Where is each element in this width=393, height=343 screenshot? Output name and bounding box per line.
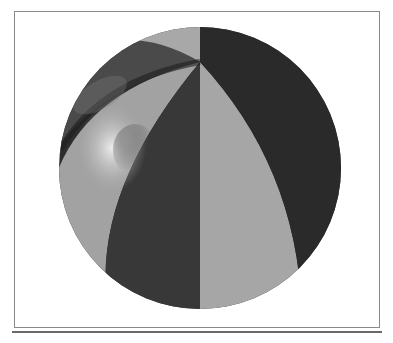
beach-ball-illustration	[0, 0, 393, 343]
bottom-rule	[12, 331, 382, 333]
